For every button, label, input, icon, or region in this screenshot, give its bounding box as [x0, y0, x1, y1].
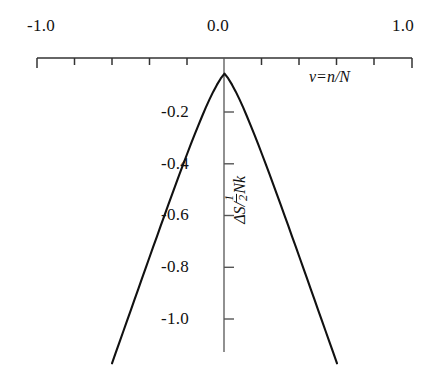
- x-tick-label-max: 1.0: [392, 16, 414, 36]
- x-axis-denominator: N: [339, 68, 350, 85]
- x-axis-numerator: n: [327, 68, 335, 85]
- x-axis-title: v=n/N: [309, 68, 350, 86]
- y-axis-title: ΔS/12Nk: [222, 176, 249, 224]
- y-tick-label-1: -0.4: [161, 154, 189, 174]
- x-tick-label-zero: 0.0: [207, 16, 229, 36]
- x-tick-label-min: -1.0: [27, 16, 55, 36]
- x-axis-equals: =: [316, 68, 327, 85]
- y-tick-label-4: -1.0: [161, 309, 189, 329]
- y-axis-nk: Nk: [231, 176, 248, 194]
- y-axis-half-denominator: 2: [237, 194, 249, 202]
- y-tick-label-0: -0.2: [161, 102, 189, 122]
- y-tick-label-2: -0.6: [161, 205, 189, 225]
- y-tick-label-3: -0.8: [161, 257, 189, 277]
- y-axis-half-numerator: 1: [223, 194, 236, 202]
- y-axis-delta-s: ΔS/: [231, 202, 248, 224]
- y-axis-half-fraction: 12: [223, 194, 249, 202]
